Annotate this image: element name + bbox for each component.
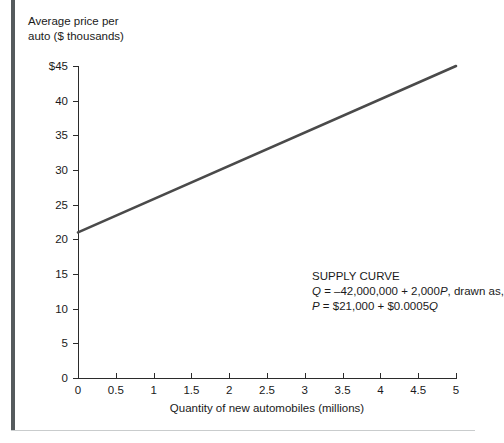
y-tick-label: 35 bbox=[22, 129, 68, 141]
y-tick-label: 10 bbox=[22, 303, 68, 315]
supply-curve-annotation: SUPPLY CURVE Q = –42,000,000 + 2,000P, d… bbox=[312, 269, 504, 314]
annotation-equation-quantity-body: = –42,000,000 + 2,000 bbox=[321, 285, 440, 297]
y-tick-label: 25 bbox=[22, 199, 68, 211]
variable-p: P bbox=[440, 285, 448, 297]
annotation-equation-price: P = $21,000 + $0.0005Q bbox=[312, 299, 504, 314]
y-tick-label: 40 bbox=[22, 95, 68, 107]
y-tick-label: 5 bbox=[22, 337, 68, 349]
left-border-bar bbox=[11, 0, 15, 431]
variable-q-2: Q bbox=[429, 300, 438, 312]
annotation-equation-quantity-suffix: , drawn as, bbox=[448, 285, 504, 297]
x-axis-title: Quantity of new automobiles (millions) bbox=[78, 402, 456, 414]
bottom-border-rule bbox=[11, 430, 475, 431]
variable-p-2: P bbox=[312, 300, 320, 312]
annotation-equation-quantity: Q = –42,000,000 + 2,000P, drawn as, bbox=[312, 284, 504, 299]
y-axis-title: Average price per auto ($ thousands) bbox=[28, 14, 124, 43]
y-tick-label: 0 bbox=[22, 372, 68, 384]
variable-q: Q bbox=[312, 285, 321, 297]
supply-curve-line bbox=[78, 66, 457, 379]
x-tick-label: 5 bbox=[434, 384, 478, 396]
plot-area: 0510152025303540$45 00.511.522.533.544.5… bbox=[78, 66, 456, 378]
annotation-equation-price-body: = $21,000 + $0.0005 bbox=[320, 300, 429, 312]
y-tick-label: 20 bbox=[22, 233, 68, 245]
y-tick-label: 30 bbox=[22, 164, 68, 176]
annotation-heading: SUPPLY CURVE bbox=[312, 269, 504, 284]
y-tick-label: $45 bbox=[22, 60, 68, 72]
y-tick-label: 15 bbox=[22, 268, 68, 280]
